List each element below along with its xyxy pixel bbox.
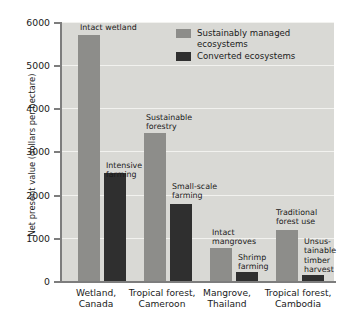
- tick-2000: [54, 195, 61, 197]
- tick-3000: [54, 151, 61, 153]
- caption-small-scale-farming: Small-scale farming: [172, 182, 217, 201]
- caption-shrimp-farming: Shrimp farming: [238, 253, 269, 272]
- x-category-tropical-forest-cambodia: Tropical forest, Cambodia: [258, 288, 338, 310]
- caption-intact-wetland: Intact wetland: [80, 23, 137, 32]
- legend-item-sustainably-managed: Sustainably managed ecosystems: [176, 28, 295, 49]
- bar-intensive-farming: [104, 173, 126, 281]
- legend-label-sustainably-managed: Sustainably managed ecosystems: [197, 28, 290, 49]
- legend-swatch-dark-icon: [176, 52, 191, 61]
- bar-sustainable-forestry: [144, 133, 166, 281]
- bar-traditional-forest-use: [276, 230, 298, 281]
- x-category-mangrove-thailand: Mangrove, Thailand: [196, 288, 258, 310]
- ytick-label-0: 0: [0, 276, 50, 287]
- legend-item-converted: Converted ecosystems: [176, 51, 295, 62]
- x-category-tropical-forest-cameroon: Tropical forest, Cameroon: [128, 288, 196, 310]
- caption-intensive-farming: Intensive farming: [106, 161, 142, 180]
- gridline-4000: [62, 108, 334, 109]
- tick-4000: [54, 108, 61, 110]
- chart-figure: Net present value (dollars per hectare) …: [0, 0, 340, 331]
- ytick-label-1000: 1000: [0, 233, 50, 244]
- ytick-label-5000: 5000: [0, 60, 50, 71]
- ytick-label-2000: 2000: [0, 190, 50, 201]
- caption-intact-mangroves: Intact mangroves: [212, 228, 256, 247]
- x-category-wetland-canada: Wetland, Canada: [62, 288, 130, 310]
- tick-0: [54, 281, 61, 283]
- chart-legend: Sustainably managed ecosystems Converted…: [176, 28, 295, 64]
- bar-small-scale-farming: [170, 204, 192, 281]
- tick-6000: [54, 22, 61, 24]
- gridline-5000: [62, 65, 334, 66]
- caption-unsustainable-timber-harvest: Unsus- tainable timber harvest: [304, 237, 336, 275]
- x-axis-line: [60, 281, 336, 283]
- caption-sustainable-forestry: Sustainable forestry: [146, 113, 192, 132]
- tick-5000: [54, 65, 61, 67]
- legend-swatch-light-icon: [176, 29, 191, 38]
- gridline-3000: [62, 151, 334, 152]
- bar-shrimp-farming: [236, 272, 258, 281]
- bar-intact-mangroves: [210, 248, 232, 281]
- tick-1000: [54, 238, 61, 240]
- legend-label-converted: Converted ecosystems: [197, 51, 295, 62]
- caption-traditional-forest-use: Traditional forest use: [276, 208, 317, 227]
- ytick-label-3000: 3000: [0, 146, 50, 157]
- ytick-label-4000: 4000: [0, 103, 50, 114]
- bar-intact-wetland: [78, 35, 100, 281]
- ytick-label-6000: 6000: [0, 17, 50, 28]
